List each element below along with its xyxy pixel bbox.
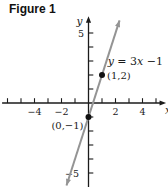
data-point (99, 72, 105, 78)
coordinate-plane-graph: −4−2245−5xyy = 3x −1(1,2)(0,−1) (0, 0, 168, 191)
function-line-arrow-icon (115, 20, 120, 27)
data-point (86, 114, 92, 120)
y-tick-label: 5 (78, 28, 84, 39)
x-axis-label: x (165, 104, 168, 116)
figure-panel: Figure 1 −4−2245−5xyy = 3x −1(1,2)(0,−1) (0, 0, 168, 191)
y-axis-arrow-icon (86, 16, 91, 23)
x-tick-label: 2 (112, 106, 118, 117)
x-tick-label: −2 (54, 106, 68, 117)
x-tick-label: −4 (27, 106, 41, 117)
equation-label: y = 3x −1 (107, 55, 163, 68)
point-label: (0,−1) (51, 120, 83, 131)
point-label: (1,2) (107, 70, 131, 81)
x-tick-label: 4 (139, 106, 145, 117)
function-line-arrow-icon (66, 178, 71, 185)
y-axis-label: y (76, 15, 84, 27)
